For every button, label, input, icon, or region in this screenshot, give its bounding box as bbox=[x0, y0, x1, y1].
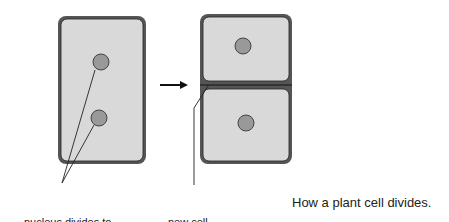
plant-cell-division-diagram bbox=[0, 0, 449, 222]
arrow-icon bbox=[160, 81, 188, 89]
label-line: nucleus divides to bbox=[24, 216, 111, 222]
label-nucleus-divides: nucleus divides to form two nuclei bbox=[24, 190, 111, 222]
label-line: new cell bbox=[168, 216, 218, 222]
nucleus-bottom bbox=[91, 110, 107, 126]
label-new-cell-wall: new cell wall forms bbox=[168, 190, 218, 222]
parent-cell bbox=[58, 16, 146, 164]
daughter-cells bbox=[200, 14, 292, 164]
nucleus-lower-cell bbox=[238, 115, 254, 131]
diagram-caption: How a plant cell divides. bbox=[292, 195, 431, 210]
nucleus-top bbox=[93, 54, 109, 70]
nucleus-upper-cell bbox=[235, 38, 251, 54]
